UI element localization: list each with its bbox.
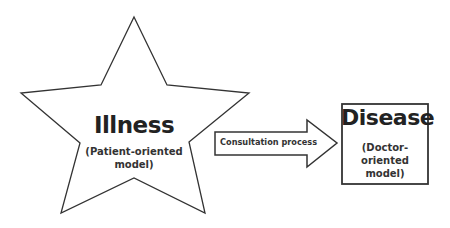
illness-subtitle-line1: (Patient-oriented: [74, 145, 194, 158]
illness-subtitle: (Patient-oriented model): [74, 145, 194, 171]
illness-subtitle-line2: model): [74, 158, 194, 171]
illness-title: Illness: [84, 112, 184, 138]
disease-subtitle: (Doctor-oriented model): [341, 141, 429, 180]
disease-subtitle-line1: (Doctor-oriented: [341, 141, 429, 167]
consultation-process-label: Consultation process: [220, 137, 310, 147]
disease-title: Disease: [341, 105, 429, 130]
disease-subtitle-line2: model): [341, 167, 429, 180]
